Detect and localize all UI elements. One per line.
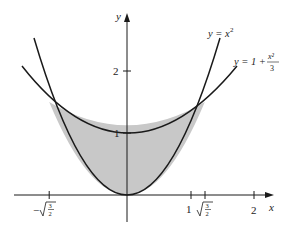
svg-text:y = 1 +: y = 1 + xyxy=(233,56,266,67)
y-tick-label-1: 1 xyxy=(114,127,120,139)
x-axis-arrow-icon xyxy=(265,192,274,198)
label-parabola: y = x 2 xyxy=(207,26,234,39)
y-tick-label-2: 2 xyxy=(113,65,119,77)
svg-text:y = x: y = x xyxy=(207,28,230,39)
svg-text:2: 2 xyxy=(230,26,234,34)
svg-text:x²: x² xyxy=(267,52,275,61)
y-axis-label: y xyxy=(115,10,121,22)
svg-text:3: 3 xyxy=(206,202,209,209)
diagram: y x 2 1 1 2 − 3 2 3 2 y = x 2 y = 1 + x²… xyxy=(0,0,292,233)
x-tick-label-neg-root: − 3 2 xyxy=(33,202,56,217)
svg-text:3: 3 xyxy=(270,64,274,73)
x-axis-label: x xyxy=(268,201,274,213)
y-axis-arrow-icon xyxy=(124,13,130,22)
svg-text:2: 2 xyxy=(206,210,209,217)
svg-text:3: 3 xyxy=(49,202,52,209)
x-tick-label-1: 1 xyxy=(186,203,192,215)
label-shallow-parabola: y = 1 + x² 3 xyxy=(233,52,279,73)
x-tick-label-root: 3 2 xyxy=(197,202,213,217)
svg-text:−: − xyxy=(33,204,39,216)
x-tick-label-2: 2 xyxy=(251,204,257,216)
svg-text:2: 2 xyxy=(49,210,52,217)
